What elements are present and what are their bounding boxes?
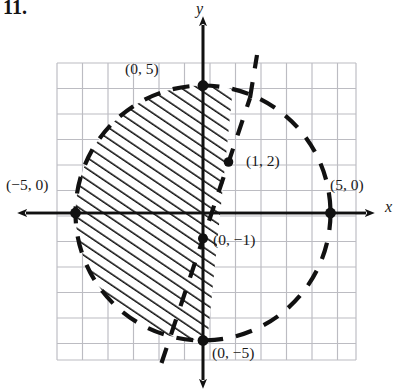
label-point-0-neg1: (0, −1) (213, 231, 255, 249)
point-neg5-0 (70, 208, 81, 219)
figure-container: 11. (0, 0, 399, 391)
y-axis-label: y (196, 0, 203, 18)
coordinate-plane-figure (0, 0, 399, 391)
point-0-neg1 (198, 234, 208, 244)
label-point-0-5: (0, 5) (125, 60, 159, 78)
label-point-5-0: (5, 0) (330, 176, 364, 194)
point-0-neg5 (198, 335, 209, 346)
label-point-0-neg5: (0, −5) (212, 344, 254, 362)
point-1-2 (224, 157, 234, 167)
point-0-5 (198, 80, 209, 91)
point-5-0 (325, 208, 336, 219)
x-axis-label: x (385, 198, 392, 216)
label-point-neg5-0: (−5, 0) (6, 176, 48, 194)
label-point-1-2: (1, 2) (246, 152, 280, 170)
